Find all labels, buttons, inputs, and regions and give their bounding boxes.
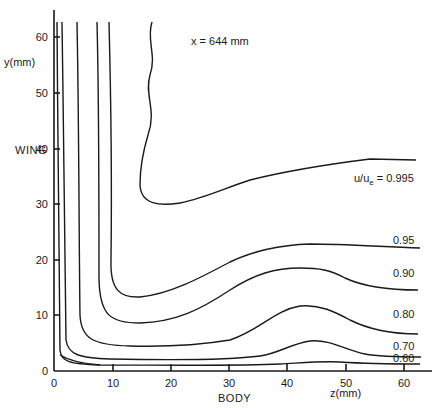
x-tick-10: 10 bbox=[107, 377, 119, 389]
x-tick-30: 30 bbox=[223, 377, 235, 389]
label-080: 0.80 bbox=[393, 308, 414, 320]
label-060: 0.60 bbox=[393, 352, 414, 364]
contour-labels: u/ue = 0.995 0.95 0.90 0.80 0.70 0.60 bbox=[354, 172, 414, 364]
y-axis-label: y(mm) bbox=[4, 56, 35, 68]
label-070: 0.70 bbox=[393, 340, 414, 352]
y-tick-60: 60 bbox=[36, 31, 48, 43]
y-tick-50: 50 bbox=[36, 87, 48, 99]
x-tick-20: 20 bbox=[165, 377, 177, 389]
y-tick-0: 0 bbox=[42, 365, 48, 377]
y-tick-labels: 0 10 20 30 40 50 60 bbox=[36, 31, 48, 377]
x-tick-40: 40 bbox=[281, 377, 293, 389]
x-tick-0: 0 bbox=[51, 377, 57, 389]
contour-080 bbox=[77, 22, 418, 346]
contour-070 bbox=[62, 22, 421, 360]
contour-chart: 0 10 20 30 40 50 60 0 10 20 30 40 50 60 … bbox=[0, 0, 442, 408]
wing-label: WING bbox=[15, 144, 47, 156]
contour-090 bbox=[97, 22, 418, 323]
x-tick-60: 60 bbox=[398, 377, 410, 389]
chart-title: x = 644 mm bbox=[191, 35, 249, 47]
x-axis-label: z(mm) bbox=[330, 387, 361, 399]
label-090: 0.90 bbox=[393, 267, 414, 279]
body-label: BODY bbox=[218, 392, 251, 404]
label-0995: u/ue = 0.995 bbox=[354, 172, 414, 187]
y-tick-20: 20 bbox=[36, 254, 48, 266]
y-tick-10: 10 bbox=[36, 309, 48, 321]
label-095: 0.95 bbox=[393, 234, 414, 246]
y-tick-30: 30 bbox=[36, 198, 48, 210]
